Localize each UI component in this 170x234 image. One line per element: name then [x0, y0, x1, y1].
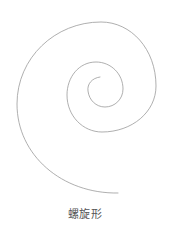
spiral-figure: 螺旋形 — [0, 0, 170, 234]
spiral-drawing — [0, 0, 170, 234]
figure-caption: 螺旋形 — [0, 205, 170, 221]
spiral-line — [17, 22, 156, 193]
